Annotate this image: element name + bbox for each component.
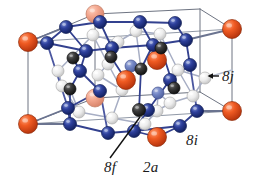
atom-8i	[184, 59, 197, 72]
atom-2a	[117, 71, 136, 90]
site-label-8f: 8f	[104, 160, 116, 175]
atom-8i	[74, 65, 87, 78]
atom-8i	[174, 120, 187, 133]
atom-8i	[41, 37, 54, 50]
atom-8i	[169, 17, 182, 30]
crystal-structure-figure: 8j 8i 8f 2a	[0, 0, 260, 186]
atom-2a	[148, 128, 167, 147]
atom-8j	[164, 97, 176, 109]
atom-8j	[87, 29, 99, 41]
atom-8i	[102, 127, 115, 140]
atom-8f	[135, 63, 147, 75]
crystal-structure-diagram	[0, 0, 260, 186]
atom-8i	[64, 118, 77, 131]
atom-8i	[94, 85, 107, 98]
site-label-2a: 2a	[143, 160, 158, 175]
atom-8i	[80, 45, 93, 58]
atom-8j	[187, 90, 199, 102]
atom-8j	[154, 28, 166, 40]
atom-8i	[60, 21, 73, 34]
atom-8j	[106, 112, 118, 124]
atom-8i	[134, 16, 147, 29]
atom-8f	[105, 51, 117, 63]
atom-8f	[133, 104, 146, 117]
atom-2a	[223, 20, 242, 39]
atom-8i	[180, 34, 193, 47]
atom-8i	[62, 102, 75, 115]
atom-8i	[152, 87, 164, 99]
atom-8j	[52, 65, 64, 77]
site-label-8i: 8i	[186, 133, 198, 148]
atom-8f	[64, 83, 76, 95]
atom-2a	[223, 102, 242, 121]
site-label-8j: 8j	[222, 69, 234, 84]
atom-8f	[67, 52, 79, 64]
atom-8j	[172, 64, 184, 76]
atom-8j	[139, 118, 151, 130]
atom-8i	[94, 16, 107, 29]
atom-8f	[155, 42, 167, 54]
atom-8j	[92, 69, 104, 81]
atom-8f	[168, 82, 180, 94]
atom-2a	[19, 115, 38, 134]
atom-8j	[199, 72, 211, 84]
atom-2a	[19, 33, 38, 52]
atom-8i	[191, 105, 204, 118]
